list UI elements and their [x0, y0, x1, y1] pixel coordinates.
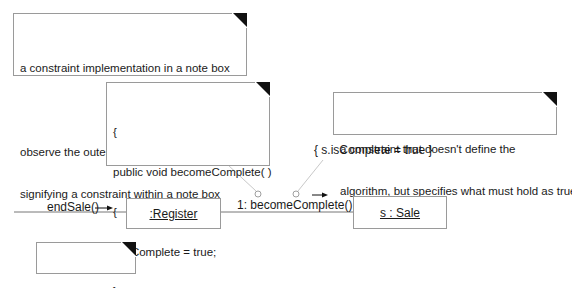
note-fold-icon — [122, 242, 136, 256]
constraint-anchor-line — [298, 160, 323, 191]
constraint-desc-note: a constraint that doesn't define the alg… — [333, 92, 557, 135]
code-line: { — [113, 126, 263, 139]
note-line: a constraint implementation in a note bo… — [20, 61, 240, 75]
constraint-text: { s.isComplete = true } — [314, 143, 432, 157]
note-fold-icon — [256, 82, 270, 96]
end-sale-message: endSale() — [47, 200, 99, 214]
note-fold-icon — [543, 92, 557, 106]
become-complete-message: 1: becomeComplete() — [237, 198, 352, 212]
sale-object[interactable]: s : Sale — [353, 196, 447, 229]
note-fold-icon — [233, 13, 247, 27]
sale-object-label: s : Sale — [380, 206, 420, 220]
method-code-note: { public void becomeComplete( ) { isComp… — [106, 82, 270, 166]
become-complete-arrow-icon — [312, 193, 328, 198]
constraint-impl-note: a constraint implementation in a note bo… — [13, 13, 247, 76]
register-object-label: :Register — [149, 207, 197, 221]
code-line: public void becomeComplete( ) — [113, 166, 263, 179]
anchor-circle-icon — [293, 191, 299, 197]
register-object[interactable]: :Register — [126, 198, 221, 229]
craig-note: // a note created by Craig — [36, 242, 136, 274]
